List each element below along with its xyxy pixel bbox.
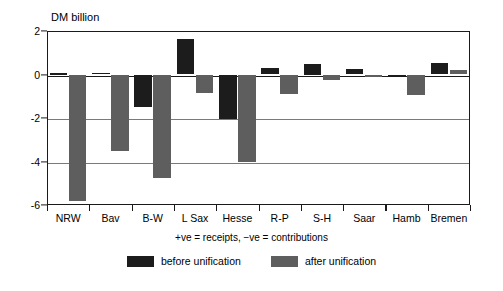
bar xyxy=(69,75,87,202)
bar xyxy=(346,69,364,75)
legend-item: after unification xyxy=(271,256,376,267)
x-tick-label: S-H xyxy=(313,213,331,224)
bar xyxy=(261,68,279,74)
y-tick-label: 0 xyxy=(34,69,40,80)
legend-swatch xyxy=(127,256,154,267)
x-tick-label: NRW xyxy=(56,213,81,224)
bar xyxy=(431,63,449,74)
legend-item: before unification xyxy=(127,256,241,267)
x-tick-label: Bremen xyxy=(430,213,467,224)
bar-group xyxy=(132,31,174,205)
x-tick-mark xyxy=(385,205,386,211)
x-tick-mark xyxy=(47,205,48,211)
bar-group xyxy=(385,31,427,205)
bar-group xyxy=(259,31,301,205)
bar xyxy=(177,39,195,74)
chart-legend: before unificationafter unification xyxy=(0,256,503,267)
x-tick-mark xyxy=(216,205,217,211)
x-tick-label: Saar xyxy=(353,213,375,224)
x-tick-label: B-W xyxy=(143,213,163,224)
bar-chart: DM billion 20-2-4-6 NRWBavB-WL SaxHesseR… xyxy=(0,0,503,291)
bar xyxy=(323,75,341,80)
y-tick-label: -6 xyxy=(31,200,40,211)
bar-group xyxy=(47,31,89,205)
legend-label: after unification xyxy=(305,256,376,267)
x-tick-mark xyxy=(301,205,302,211)
x-tick-label: L Sax xyxy=(182,213,208,224)
x-tick-label: R-P xyxy=(271,213,289,224)
bar xyxy=(238,75,256,162)
legend-swatch xyxy=(271,256,298,267)
y-tick-label: -2 xyxy=(31,113,40,124)
y-axis-title: DM billion xyxy=(51,12,99,23)
bar-group xyxy=(301,31,343,205)
chart-footnote: +ve = receipts, −ve = contributions xyxy=(0,233,503,243)
bar xyxy=(111,75,129,152)
bar xyxy=(365,75,383,77)
x-tick-label: Hamb xyxy=(393,213,421,224)
bar xyxy=(388,75,406,77)
bar xyxy=(407,75,425,96)
y-axis: 20-2-4-6 xyxy=(0,31,47,205)
bar xyxy=(92,73,110,75)
x-tick-mark xyxy=(470,205,471,211)
x-tick-mark xyxy=(428,205,429,211)
bar xyxy=(153,75,171,179)
bar xyxy=(196,75,214,93)
bars-layer xyxy=(47,31,470,205)
bar-group xyxy=(216,31,258,205)
bar-group xyxy=(89,31,131,205)
bar xyxy=(134,75,152,108)
y-tick-label: 2 xyxy=(34,26,40,37)
x-tick-mark xyxy=(343,205,344,211)
bar xyxy=(219,75,237,120)
bar xyxy=(280,75,298,95)
x-tick-mark xyxy=(132,205,133,211)
bar xyxy=(450,70,468,75)
x-tick-label: Bav xyxy=(101,213,119,224)
bar xyxy=(304,64,322,75)
x-tick-label: Hesse xyxy=(222,213,252,224)
x-tick-mark xyxy=(89,205,90,211)
x-axis: NRWBavB-WL SaxHesseR-PS-HSaarHambBremen xyxy=(47,205,470,233)
x-tick-mark xyxy=(259,205,260,211)
x-tick-mark xyxy=(174,205,175,211)
legend-label: before unification xyxy=(161,256,241,267)
bar-group xyxy=(343,31,385,205)
bar-group xyxy=(174,31,216,205)
y-tick-label: -4 xyxy=(31,156,40,167)
bar-group xyxy=(428,31,470,205)
bar xyxy=(50,73,68,74)
